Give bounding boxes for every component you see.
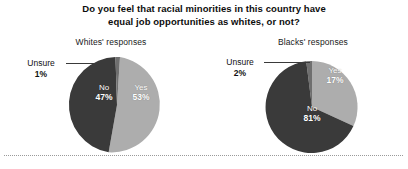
callout-leader-line-whites [66, 63, 114, 64]
chart-subtitle-whites: Whites' responses [0, 37, 204, 47]
callout-unsure-whites: Unsure 1% [17, 58, 65, 79]
chart-subtitle-blacks: Blacks' responses [204, 37, 408, 47]
slice-label-yes-blacks: Yes 17% [317, 66, 353, 85]
slice-label-no-whites: No 47% [86, 83, 122, 102]
pie-chart-whites [69, 57, 165, 153]
slice-label-yes-whites: Yes 53% [123, 83, 159, 102]
callout-leader-line-blacks [264, 62, 310, 63]
chart-canvas: Do you feel that racial minorities in th… [0, 0, 408, 169]
slice-label-no-blacks: No 81% [294, 104, 330, 123]
chart-panel-whites: Whites' responses No 47% Yes 53% Unsure … [0, 0, 204, 169]
pie-svg-whites [69, 57, 165, 153]
pie-slice-no-whites [69, 57, 117, 152]
callout-unsure-blacks: Unsure 2% [216, 57, 264, 78]
chart-panel-blacks: Blacks' responses Yes 17% No 81% Unsure … [204, 0, 408, 169]
footer-divider [4, 155, 404, 156]
